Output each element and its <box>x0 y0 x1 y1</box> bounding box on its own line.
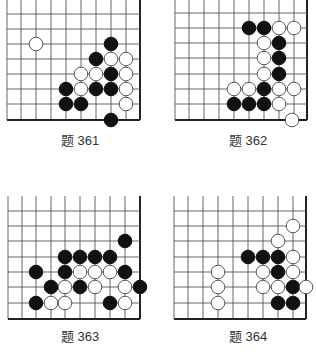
black-stone <box>257 97 271 111</box>
black-stone <box>44 280 58 294</box>
go-problem-sheet <box>0 0 316 358</box>
black-stone <box>242 21 256 35</box>
white-stone <box>287 82 301 96</box>
go-board-361 <box>7 0 140 127</box>
white-stone <box>73 265 87 279</box>
white-stone <box>119 52 133 66</box>
white-stone <box>118 280 132 294</box>
black-stone <box>227 97 241 111</box>
black-stone <box>286 280 300 294</box>
white-stone <box>257 36 271 50</box>
black-stone <box>58 265 72 279</box>
white-stone <box>242 82 256 96</box>
black-stone <box>271 250 285 264</box>
white-stone <box>271 234 285 248</box>
black-stone <box>73 250 87 264</box>
black-stone <box>59 97 73 111</box>
white-stone <box>287 21 301 35</box>
problem-label-364: 题 364 <box>208 326 288 345</box>
black-stone <box>257 82 271 96</box>
white-stone <box>119 97 133 111</box>
black-stone <box>241 250 255 264</box>
black-stone <box>104 113 118 127</box>
black-stone <box>103 250 117 264</box>
black-stone <box>257 21 271 35</box>
white-stone <box>272 82 286 96</box>
white-stone <box>29 37 43 51</box>
problem-label-361: 题 361 <box>40 130 120 149</box>
white-stone <box>74 67 88 81</box>
black-stone <box>118 265 132 279</box>
problem-label-363: 题 363 <box>40 326 120 345</box>
white-stone <box>299 280 313 294</box>
black-stone <box>271 265 285 279</box>
black-stone <box>272 67 286 81</box>
white-stone <box>58 296 72 310</box>
black-stone <box>256 250 270 264</box>
white-stone <box>119 67 133 81</box>
white-stone <box>256 265 270 279</box>
white-stone <box>88 280 102 294</box>
black-stone <box>104 82 118 96</box>
problem-label-362: 题 362 <box>208 130 288 149</box>
black-stone <box>103 296 117 310</box>
white-stone <box>211 296 225 310</box>
white-stone <box>286 250 300 264</box>
white-stone <box>286 219 300 233</box>
white-stone <box>89 67 103 81</box>
black-stone <box>272 51 286 65</box>
black-stone <box>59 82 73 96</box>
white-stone <box>118 296 132 310</box>
white-stone <box>256 280 270 294</box>
black-stone <box>74 97 88 111</box>
black-stone <box>286 296 300 310</box>
white-stone <box>104 52 118 66</box>
black-stone <box>272 36 286 50</box>
white-stone <box>286 265 300 279</box>
black-stone <box>88 250 102 264</box>
white-stone <box>272 21 286 35</box>
black-stone <box>104 67 118 81</box>
white-stone <box>257 51 271 65</box>
white-stone <box>272 97 286 111</box>
black-stone <box>118 234 132 248</box>
white-stone <box>44 296 58 310</box>
black-stone <box>89 52 103 66</box>
black-stone <box>29 265 43 279</box>
white-stone <box>103 265 117 279</box>
go-board-363 <box>8 196 147 319</box>
black-stone <box>271 296 285 310</box>
white-stone <box>227 82 241 96</box>
go-board-362 <box>175 0 307 127</box>
black-stone <box>242 97 256 111</box>
white-stone <box>271 280 285 294</box>
black-stone <box>58 250 72 264</box>
black-stone <box>73 280 87 294</box>
white-stone <box>285 113 299 127</box>
white-stone <box>88 265 102 279</box>
black-stone <box>29 296 43 310</box>
black-stone <box>133 280 147 294</box>
black-stone <box>104 37 118 51</box>
white-stone <box>211 280 225 294</box>
go-board-364 <box>174 196 313 319</box>
black-stone <box>89 82 103 96</box>
white-stone <box>119 82 133 96</box>
white-stone <box>58 280 72 294</box>
white-stone <box>74 82 88 96</box>
white-stone <box>257 67 271 81</box>
white-stone <box>211 265 225 279</box>
